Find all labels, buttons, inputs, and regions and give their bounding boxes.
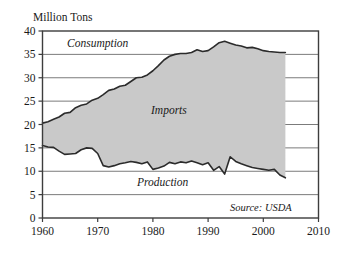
y-tick-label-20: 20 [24,119,36,131]
series-label-production: Production [136,176,189,188]
y-tick-label-25: 25 [24,95,36,107]
y-tick-label-30: 30 [24,72,36,84]
source-note: Source: USDA [230,202,292,213]
x-tick-label-2010: 2010 [307,225,330,237]
chart-container: Million Tons 0510152025303540 1960197019… [0,0,347,254]
series-label-imports: Imports [150,104,187,117]
y-tick-label-35: 35 [24,48,36,60]
x-tick-label-1960: 1960 [31,225,54,237]
y-axis-ticks-group: 0510152025303540 [24,25,43,224]
x-tick-label-1970: 1970 [86,225,109,237]
x-tick-label-1980: 1980 [141,225,164,237]
x-tick-label-1990: 1990 [197,225,220,237]
y-tick-label-0: 0 [30,212,36,224]
grain-supply-area-chart: Million Tons 0510152025303540 1960197019… [0,0,347,254]
x-axis-ticks-group: 196019701980199020002010 [31,218,330,237]
x-tick-label-2000: 2000 [252,225,275,237]
y-tick-label-15: 15 [24,142,36,154]
y-tick-label-5: 5 [30,189,36,201]
y-tick-label-40: 40 [24,25,36,37]
series-label-consumption: Consumption [67,37,129,50]
y-tick-label-10: 10 [24,165,36,177]
y-axis-title: Million Tons [33,11,93,23]
